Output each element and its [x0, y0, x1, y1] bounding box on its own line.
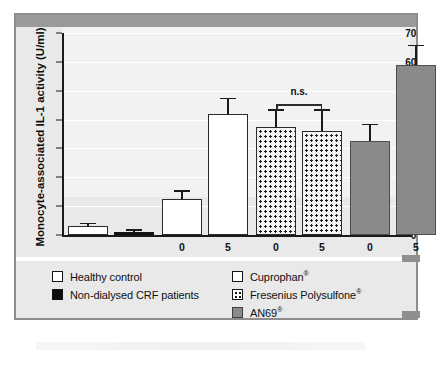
error-bar-cap — [126, 229, 142, 231]
bar — [114, 232, 154, 235]
legend-swatch-grey — [232, 307, 243, 318]
bracket-horizontal-line — [276, 104, 322, 106]
error-bar-cap — [314, 109, 330, 111]
caption-smudge — [36, 342, 366, 350]
figure-top-band — [16, 15, 416, 27]
error-bar-stem — [415, 45, 417, 65]
legend-item[interactable]: Non-dialysed CRF patients — [52, 287, 199, 302]
error-bar-stem — [321, 109, 323, 131]
legend-item-label: Cuprophan® — [250, 270, 309, 283]
error-bar-cap — [220, 98, 236, 100]
error-bar-stem — [275, 109, 277, 126]
bar — [208, 114, 248, 235]
error-bar-cap — [408, 45, 424, 47]
bar — [396, 65, 436, 235]
bar — [350, 141, 390, 235]
legend-item[interactable]: Fresenius Polysulfone® — [232, 287, 361, 302]
legend-item[interactable]: Healthy control — [52, 269, 199, 284]
legend-item-label: Fresenius Polysulfone® — [250, 288, 361, 301]
legend-swatch-dotted — [232, 289, 243, 300]
legend-item-label: Non-dialysed CRF patients — [70, 289, 199, 301]
bar — [162, 199, 202, 235]
x-axis-tick-label: 0 — [179, 241, 185, 253]
legend-swatch-black — [52, 289, 63, 300]
x-axis-tick-label: 5 — [319, 241, 325, 253]
bar — [68, 226, 108, 235]
legend-item[interactable]: AN69® — [232, 305, 361, 320]
gridline — [64, 62, 410, 63]
y-axis-tick-label: 70 — [382, 28, 416, 39]
x-axis-tick-label: 5 — [225, 241, 231, 253]
edge-tab-top — [402, 255, 420, 262]
legend-panel: Healthy controlNon-dialysed CRF patients… — [16, 261, 416, 318]
plot-panel: 010203040506070 Monocyte-associated IL-1… — [16, 27, 416, 257]
legend-swatch-white — [52, 271, 63, 282]
registered-trademark-icon: ® — [304, 270, 309, 277]
error-bar-cap — [80, 223, 96, 225]
x-axis-tick-label: 5 — [413, 241, 419, 253]
legend-item-label: AN69® — [250, 306, 282, 319]
x-axis-line — [62, 235, 412, 237]
bracket-right-tick — [321, 104, 323, 111]
figure-frame: 010203040506070 Monocyte-associated IL-1… — [14, 13, 418, 320]
error-bar-stem — [227, 98, 229, 114]
legend-column-right: Cuprophan®Fresenius Polysulfone®AN69® — [232, 269, 361, 323]
bar — [302, 131, 342, 235]
legend-item-label: Healthy control — [70, 271, 142, 283]
edge-tab-bottom — [402, 311, 420, 318]
legend-item[interactable]: Cuprophan® — [232, 269, 361, 284]
error-bar-cap — [362, 124, 378, 126]
x-axis-tick-label: 0 — [367, 241, 373, 253]
bar — [256, 127, 296, 235]
legend-swatch-white — [232, 271, 243, 282]
x-axis-tick-label: 0 — [273, 241, 279, 253]
ns-annotation-bracket — [276, 97, 322, 107]
error-bar-stem — [369, 124, 371, 141]
y-axis-title: Monocyte-associated IL-1 activity (U/ml) — [34, 27, 46, 247]
legend-column-left: Healthy controlNon-dialysed CRF patients — [52, 269, 199, 305]
gridline — [64, 33, 410, 34]
error-bar-cap — [174, 190, 190, 192]
registered-trademark-icon: ® — [356, 288, 361, 295]
y-axis-line — [62, 33, 64, 237]
registered-trademark-icon: ® — [277, 306, 282, 313]
ns-annotation-label: n.s. — [276, 86, 322, 97]
gridline — [64, 91, 410, 92]
